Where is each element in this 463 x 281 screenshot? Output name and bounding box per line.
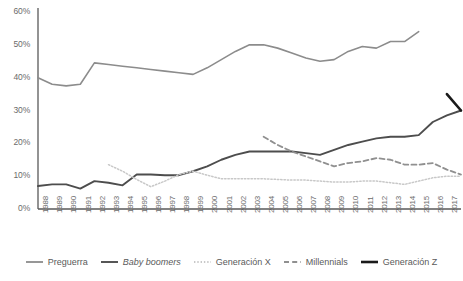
legend-swatch-solid-icon [26,258,43,266]
legend-item[interactable]: Baby boomers [101,257,181,267]
legend-item[interactable]: Preguerra [26,257,88,267]
legend-swatch-solid-icon [101,258,118,266]
legend-swatch-solid-icon [361,258,378,266]
legend-item[interactable]: Millennials [284,257,348,267]
legend-swatch-dashed-icon [284,258,301,266]
series-line [38,32,419,86]
legend-item[interactable]: Generación Z [361,257,438,267]
legend-item[interactable]: Generación X [194,257,271,267]
line-chart: 0%10%20%30%40%50%60% 1988198919901991199… [0,0,463,281]
legend-label: Generación Z [383,257,438,267]
legend-label: Preguerra [48,257,88,267]
legend-label: Millennials [306,257,348,267]
legend-swatch-dotted-icon [194,258,211,266]
series-line [447,94,461,110]
series-line [38,111,461,189]
chart-legend: PreguerraBaby boomersGeneración XMillenn… [0,252,463,272]
legend-label: Generación X [216,257,271,267]
plot-area [0,0,463,281]
legend-label: Baby boomers [123,257,181,267]
